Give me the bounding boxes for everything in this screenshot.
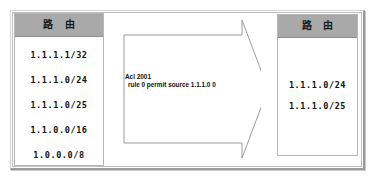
left-route-list: 1.1.1.1/32 1.1.1.0/24 1.1.1.0/25 1.1.0.0… — [15, 37, 103, 166]
list-item: 1.1.1.0/24 — [278, 75, 357, 96]
list-item: 1.1.0.0/16 — [15, 118, 103, 143]
list-item: 1.1.1.1/32 — [15, 43, 103, 68]
list-item: 1.1.1.0/25 — [278, 96, 357, 117]
acl-name-line: Acl 2001 — [125, 73, 245, 81]
acl-rule-line: rule 0 permit source 1.1.1.0 0 — [125, 81, 245, 89]
diagram-canvas: 路 由 1.1.1.1/32 1.1.1.0/24 1.1.1.0/25 1.1… — [0, 0, 374, 179]
right-arrow-icon — [111, 15, 261, 165]
right-route-list: 1.1.1.0/24 1.1.1.0/25 — [278, 75, 357, 117]
left-routing-table-header: 路 由 — [15, 14, 103, 37]
right-routing-table-panel: 路 由 1.1.1.0/24 1.1.1.0/25 — [277, 14, 358, 156]
list-item: 1.0.0.0/8 — [15, 143, 103, 166]
left-routing-table-title: 路 由 — [39, 20, 78, 30]
left-routing-table-panel: 路 由 1.1.1.1/32 1.1.1.0/24 1.1.1.0/25 1.1… — [14, 13, 104, 166]
right-routing-table-title: 路 由 — [298, 21, 337, 31]
acl-filter-arrow: Acl 2001 rule 0 permit source 1.1.1.0 0 — [111, 15, 261, 165]
outer-frame: 路 由 1.1.1.1/32 1.1.1.0/24 1.1.1.0/25 1.1… — [10, 10, 365, 170]
right-routing-table-header: 路 由 — [278, 15, 357, 38]
list-item: 1.1.1.0/25 — [15, 93, 103, 118]
acl-config-text: Acl 2001 rule 0 permit source 1.1.1.0 0 — [125, 73, 245, 89]
list-item: 1.1.1.0/24 — [15, 68, 103, 93]
